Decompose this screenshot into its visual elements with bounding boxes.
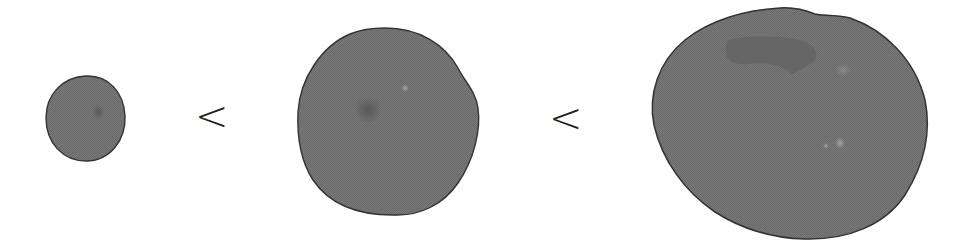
medium-blob <box>298 28 479 215</box>
shape-medium <box>298 28 479 215</box>
shape-small <box>46 76 125 161</box>
small-blob <box>46 76 125 161</box>
shapes-canvas <box>0 0 958 241</box>
small-blob-dark-spot <box>92 104 104 120</box>
large-blob-light-speck-small <box>823 143 829 149</box>
medium-blob-light-speck <box>401 84 409 92</box>
large-blob-light-area <box>835 64 851 76</box>
large-blob-light-speck <box>835 137 845 149</box>
shape-large <box>652 8 927 239</box>
less-than-symbol-1: < <box>195 96 229 136</box>
less-than-symbol-2: < <box>549 98 583 138</box>
medium-blob-dark-spot <box>354 96 382 124</box>
size-comparison-figure: < < <box>0 0 958 241</box>
